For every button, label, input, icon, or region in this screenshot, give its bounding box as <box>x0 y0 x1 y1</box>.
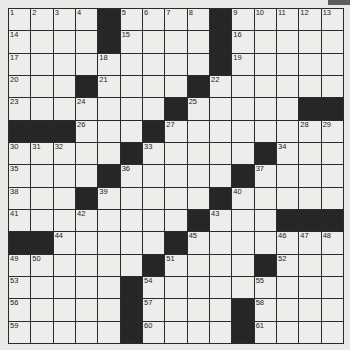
grid-cell[interactable]: 61 <box>255 322 276 343</box>
grid-cell[interactable] <box>31 299 52 320</box>
grid-cell[interactable]: 40 <box>232 188 253 209</box>
grid-cell[interactable] <box>76 299 97 320</box>
grid-cell[interactable] <box>98 143 119 164</box>
grid-cell[interactable] <box>76 165 97 186</box>
grid-cell[interactable] <box>76 277 97 298</box>
grid-cell[interactable] <box>255 210 276 231</box>
grid-cell[interactable] <box>232 143 253 164</box>
grid-cell[interactable]: 44 <box>54 232 75 253</box>
grid-cell[interactable]: 41 <box>9 210 30 231</box>
grid-cell[interactable] <box>143 188 164 209</box>
grid-cell[interactable] <box>188 31 209 52</box>
grid-cell[interactable]: 19 <box>232 54 253 75</box>
grid-cell[interactable]: 58 <box>255 299 276 320</box>
grid-cell[interactable] <box>210 121 231 142</box>
grid-cell[interactable] <box>121 54 142 75</box>
grid-cell[interactable] <box>232 121 253 142</box>
grid-cell[interactable] <box>143 165 164 186</box>
grid-cell[interactable]: 16 <box>232 31 253 52</box>
grid-cell[interactable] <box>299 31 320 52</box>
grid-cell[interactable] <box>31 165 52 186</box>
grid-cell[interactable]: 45 <box>188 232 209 253</box>
grid-cell[interactable]: 26 <box>76 121 97 142</box>
grid-cell[interactable]: 21 <box>98 76 119 97</box>
grid-cell[interactable] <box>31 210 52 231</box>
grid-cell[interactable] <box>165 165 186 186</box>
grid-cell[interactable]: 7 <box>165 9 186 30</box>
grid-cell[interactable] <box>299 54 320 75</box>
grid-cell[interactable]: 59 <box>9 322 30 343</box>
grid-cell[interactable] <box>299 165 320 186</box>
grid-cell[interactable] <box>232 255 253 276</box>
grid-cell[interactable]: 9 <box>232 9 253 30</box>
grid-cell[interactable]: 53 <box>9 277 30 298</box>
grid-cell[interactable] <box>210 143 231 164</box>
grid-cell[interactable] <box>299 76 320 97</box>
grid-cell[interactable] <box>98 232 119 253</box>
grid-cell[interactable] <box>188 54 209 75</box>
grid-cell[interactable] <box>54 165 75 186</box>
grid-cell[interactable] <box>277 98 298 119</box>
grid-cell[interactable]: 37 <box>255 165 276 186</box>
grid-cell[interactable] <box>121 232 142 253</box>
grid-cell[interactable] <box>188 299 209 320</box>
grid-cell[interactable]: 8 <box>188 9 209 30</box>
grid-cell[interactable]: 30 <box>9 143 30 164</box>
grid-cell[interactable] <box>76 31 97 52</box>
grid-cell[interactable]: 27 <box>165 121 186 142</box>
grid-cell[interactable]: 36 <box>121 165 142 186</box>
grid-cell[interactable] <box>188 121 209 142</box>
grid-cell[interactable]: 4 <box>76 9 97 30</box>
grid-cell[interactable]: 42 <box>76 210 97 231</box>
grid-cell[interactable] <box>255 76 276 97</box>
grid-cell[interactable] <box>322 76 343 97</box>
grid-cell[interactable]: 56 <box>9 299 30 320</box>
grid-cell[interactable] <box>210 299 231 320</box>
grid-cell[interactable] <box>210 255 231 276</box>
grid-cell[interactable] <box>255 232 276 253</box>
grid-cell[interactable]: 34 <box>277 143 298 164</box>
grid-cell[interactable] <box>277 31 298 52</box>
grid-cell[interactable] <box>98 299 119 320</box>
grid-cell[interactable]: 29 <box>322 121 343 142</box>
grid-cell[interactable] <box>98 255 119 276</box>
grid-cell[interactable]: 39 <box>98 188 119 209</box>
grid-cell[interactable] <box>322 143 343 164</box>
grid-cell[interactable] <box>322 165 343 186</box>
grid-cell[interactable] <box>54 76 75 97</box>
grid-cell[interactable] <box>232 210 253 231</box>
grid-cell[interactable]: 18 <box>98 54 119 75</box>
grid-cell[interactable] <box>165 76 186 97</box>
grid-cell[interactable] <box>76 54 97 75</box>
grid-cell[interactable]: 5 <box>121 9 142 30</box>
grid-cell[interactable]: 48 <box>322 232 343 253</box>
grid-cell[interactable] <box>322 322 343 343</box>
grid-cell[interactable]: 1 <box>9 9 30 30</box>
grid-cell[interactable] <box>165 210 186 231</box>
grid-cell[interactable] <box>322 188 343 209</box>
grid-cell[interactable] <box>76 255 97 276</box>
grid-cell[interactable] <box>255 54 276 75</box>
grid-cell[interactable]: 23 <box>9 98 30 119</box>
grid-cell[interactable] <box>188 322 209 343</box>
grid-cell[interactable] <box>143 76 164 97</box>
grid-cell[interactable] <box>143 98 164 119</box>
grid-cell[interactable] <box>76 322 97 343</box>
grid-cell[interactable]: 2 <box>31 9 52 30</box>
grid-cell[interactable] <box>255 98 276 119</box>
grid-cell[interactable] <box>277 76 298 97</box>
grid-cell[interactable] <box>165 299 186 320</box>
grid-cell[interactable] <box>322 255 343 276</box>
grid-cell[interactable] <box>54 188 75 209</box>
grid-cell[interactable]: 54 <box>143 277 164 298</box>
grid-cell[interactable] <box>188 143 209 164</box>
grid-cell[interactable]: 47 <box>299 232 320 253</box>
grid-cell[interactable] <box>299 299 320 320</box>
grid-cell[interactable]: 35 <box>9 165 30 186</box>
grid-cell[interactable]: 22 <box>210 76 231 97</box>
grid-cell[interactable] <box>98 121 119 142</box>
grid-cell[interactable]: 50 <box>31 255 52 276</box>
grid-cell[interactable]: 32 <box>54 143 75 164</box>
grid-cell[interactable] <box>322 277 343 298</box>
grid-cell[interactable] <box>54 277 75 298</box>
